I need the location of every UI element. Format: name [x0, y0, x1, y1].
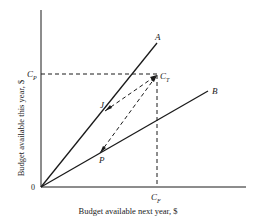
y-axis-label: Budget available this year, $ — [16, 80, 26, 177]
label-p: P — [98, 155, 105, 165]
label-ct: CT — [160, 71, 170, 83]
p-to-ct-dashed — [100, 75, 157, 153]
ray-b — [41, 91, 208, 187]
label-cf: CF — [151, 192, 161, 204]
label-cp: CP — [27, 69, 37, 81]
budget-diagram: A B J P 0 CT CP CF Budget available next… — [0, 0, 257, 224]
label-a: A — [154, 32, 161, 42]
ray-a — [41, 43, 157, 187]
j-to-ct-dashed — [105, 75, 157, 111]
x-axis-label: Budget available next year, $ — [78, 206, 177, 216]
label-b: B — [212, 86, 218, 96]
label-origin: 0 — [31, 183, 35, 192]
